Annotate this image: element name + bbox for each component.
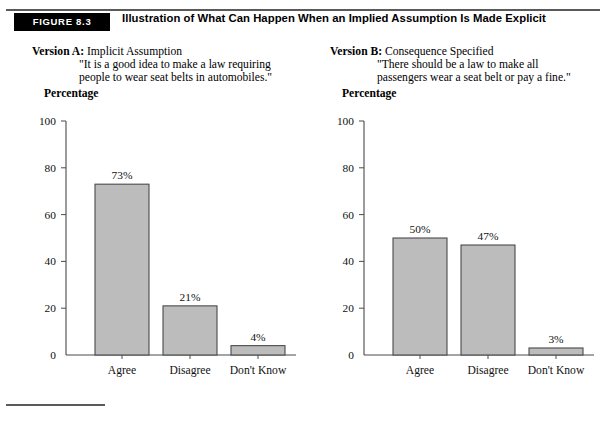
figure-number-label: FIGURE 8.3 (33, 17, 92, 27)
chart-b-category-label: Disagree (467, 364, 508, 377)
chart-a-ytick-label: 40 (45, 255, 57, 267)
version-a-quote-line2: people to wear seat belts in automobiles… (79, 72, 300, 85)
chart-a-ytick-label: 100 (39, 115, 56, 127)
chart-b-ytick-label: 20 (343, 302, 355, 314)
chart-a-bar (163, 306, 217, 355)
chart-a-plot-area: 02040608010073%Agree21%Disagree4%Don't K… (24, 108, 304, 388)
version-a-name: Implicit Assumption (87, 45, 182, 58)
chart-b-plot-area: 02040608010050%Agree47%Disagree3%Don't K… (322, 108, 602, 388)
bar-chart-version-a: Percentage 02040608010073%Agree21%Disagr… (24, 88, 304, 388)
chart-b-bar-value-label: 47% (478, 230, 499, 242)
version-b-caption: Version B: Consequence Specified "There … (330, 46, 600, 85)
footer-rule (6, 404, 105, 406)
chart-a-svg: 02040608010073%Agree21%Disagree4%Don't K… (24, 108, 304, 388)
chart-a-ytick-label: 20 (45, 302, 57, 314)
version-b-label: Version B: (330, 45, 382, 58)
chart-a-y-axis-title: Percentage (44, 88, 99, 100)
chart-b-svg: 02040608010050%Agree47%Disagree3%Don't K… (322, 108, 602, 388)
version-b-quote-line2: passengers wear a seat belt or pay a fin… (377, 72, 600, 85)
chart-b-category-label: Don't Know (528, 364, 585, 377)
chart-b-ytick-label: 40 (343, 255, 355, 267)
header-top-rule (6, 9, 600, 11)
chart-b-ytick-label: 100 (337, 115, 354, 127)
chart-b-bar (393, 238, 447, 355)
chart-b-bar-value-label: 3% (548, 333, 564, 345)
chart-a-ytick-label: 80 (45, 162, 57, 174)
version-b-name: Consequence Specified (385, 45, 494, 58)
chart-a-ytick-label: 0 (50, 349, 56, 361)
chart-a-category-label: Agree (108, 364, 136, 377)
chart-a-ytick-label: 60 (45, 209, 57, 221)
bar-chart-version-b: Percentage 02040608010050%Agree47%Disagr… (322, 88, 602, 388)
chart-b-category-label: Agree (406, 364, 434, 377)
chart-a-bar (95, 184, 149, 355)
chart-a-bar-value-label: 73% (112, 169, 133, 181)
figure-number-badge: FIGURE 8.3 (14, 13, 110, 31)
chart-a-bar-value-label: 4% (250, 331, 266, 343)
version-a-caption: Version A: Implicit Assumption "It is a … (32, 46, 300, 85)
chart-b-ytick-label: 60 (343, 209, 355, 221)
chart-b-bar-value-label: 50% (410, 223, 431, 235)
figure-title: Illustration of What Can Happen When an … (122, 12, 594, 26)
chart-b-bar (529, 348, 583, 355)
chart-b-ytick-label: 0 (348, 349, 354, 361)
chart-b-bar (461, 245, 515, 355)
chart-b-y-axis-title: Percentage (342, 88, 397, 100)
chart-a-bar-value-label: 21% (180, 291, 201, 303)
chart-b-ytick-label: 80 (343, 162, 355, 174)
chart-a-bar (231, 346, 285, 355)
chart-a-category-label: Disagree (169, 364, 210, 377)
chart-a-category-label: Don't Know (230, 364, 287, 377)
version-a-label: Version A: (32, 45, 84, 58)
